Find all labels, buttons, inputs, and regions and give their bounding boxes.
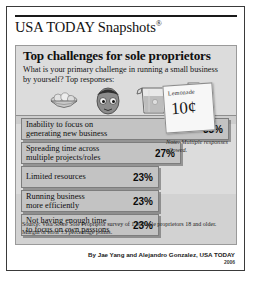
bar-4-value: 23% [133,191,153,211]
bar-2: Spreading time across multiple projects/… [21,142,181,164]
snapshot-frame: USA TODAY Snapshots® Top challenges for … [6,6,245,271]
bar-2-label-line1: Spreading time across [26,144,99,153]
bar-chart: Inability to focus on generating new bus… [21,118,233,238]
masthead-title: USA TODAY Snapshots® [15,19,237,36]
bar-4-label-line2: more efficiently [26,201,79,210]
chart-panel: Top challenges for sole proprietors What… [15,45,237,245]
lemonade-sign-price: 10¢ [170,98,197,120]
bar-3-label-wrap: Limited resources [26,167,124,187]
masthead-title-text: USA TODAY Snapshots [15,19,156,35]
bar-2-label-wrap: Spreading time across multiple projects/… [26,143,146,163]
bar-4-label: Running business more efficiently [26,192,85,211]
bar-3: Limited resources 23% [21,166,159,188]
bar-3-value: 23% [133,167,153,187]
lemonade-sign: Lemonade 10¢ [162,82,215,133]
bar-3-label: Limited resources [26,172,86,181]
bowl-of-lemons-icon [51,93,77,108]
table-row: Running business more efficiently 23% [21,190,233,212]
chart-note: Note: Multiple responses allowed. [166,138,230,154]
masthead-rule [15,15,237,17]
lemonade-sign-word: Lemonade [168,89,195,97]
chart-source: Source: Visa/Score Sole Proprietor surve… [22,221,232,237]
bar-4-label-wrap: Running business more efficiently [26,191,124,211]
bar-1-label-line2: generating new business [26,129,107,138]
byline-year: 2006 [88,259,235,267]
registered-trademark-icon: ® [156,19,162,28]
bar-4: Running business more efficiently 23% [21,190,159,212]
bar-2-label-line2: multiple projects/roles [26,153,100,162]
bar-2-label: Spreading time across multiple projects/… [26,144,100,163]
masthead: USA TODAY Snapshots® [15,15,237,36]
bar-1-label-line1: Inability to focus on [26,120,93,129]
table-row: Limited resources 23% [21,166,233,188]
byline: By Jae Yang and Alejandro Gonzalez, USA … [88,250,235,267]
bar-4-label-line1: Running business [26,192,85,201]
byline-credit: By Jae Yang and Alejandro Gonzalez, USA … [88,250,235,259]
chart-headline: Top challenges for sole proprietors [23,49,231,63]
bar-1-label: Inability to focus on generating new bus… [26,120,107,139]
person-head-icon [97,88,119,114]
